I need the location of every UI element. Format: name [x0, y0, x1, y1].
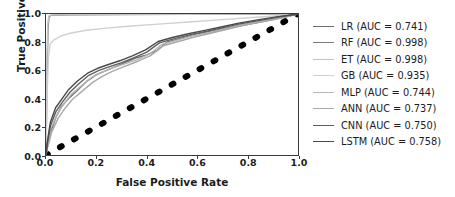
x-tick-mark — [299, 156, 300, 159]
legend-swatch-rf — [313, 42, 334, 43]
x-tick-mark — [147, 156, 148, 159]
y-tick-mark — [42, 99, 45, 100]
legend-swatch-mlp — [313, 92, 334, 93]
roc-curve-figure: 0.00.20.40.60.81.00.00.20.40.60.81.0 Fal… — [0, 0, 455, 197]
x-tick-mark — [197, 156, 198, 159]
legend: LR (AUC = 0.741)RF (AUC = 0.998)ET (AUC … — [313, 18, 453, 150]
legend-item-ann[interactable]: ANN (AUC = 0.737) — [313, 101, 453, 118]
legend-label-mlp: MLP (AUC = 0.744) — [341, 87, 435, 98]
legend-item-rf[interactable]: RF (AUC = 0.998) — [313, 35, 453, 52]
legend-label-ann: ANN (AUC = 0.737) — [341, 103, 436, 114]
legend-item-gb[interactable]: GB (AUC = 0.935) — [313, 68, 453, 85]
legend-label-cnn: CNN (AUC = 0.750) — [341, 120, 436, 131]
legend-label-et: ET (AUC = 0.998) — [341, 54, 427, 65]
legend-item-lstm[interactable]: LSTM (AUC = 0.758) — [313, 134, 453, 151]
legend-item-mlp[interactable]: MLP (AUC = 0.744) — [313, 84, 453, 101]
legend-swatch-gb — [313, 75, 334, 76]
x-tick-mark — [248, 156, 249, 159]
roc-curves-svg — [46, 14, 298, 155]
y-tick-mark — [42, 127, 45, 128]
legend-label-rf: RF (AUC = 0.998) — [341, 37, 427, 48]
legend-label-lstm: LSTM (AUC = 0.758) — [341, 136, 441, 147]
y-tick-label: 0.2 — [8, 122, 41, 133]
y-tick-label: 0.0 — [8, 151, 41, 162]
legend-swatch-et — [313, 59, 334, 60]
x-tick-mark — [96, 156, 97, 159]
legend-swatch-ann — [313, 108, 334, 109]
legend-swatch-cnn — [313, 125, 334, 126]
y-axis-label: True Positive Rate — [15, 0, 27, 91]
legend-swatch-lr — [313, 26, 334, 27]
legend-item-et[interactable]: ET (AUC = 0.998) — [313, 51, 453, 68]
legend-swatch-lstm — [313, 141, 334, 142]
plot-area — [45, 13, 299, 156]
legend-label-lr: LR (AUC = 0.741) — [341, 21, 427, 32]
y-tick-label: 0.4 — [8, 93, 41, 104]
y-tick-mark — [42, 156, 45, 157]
x-axis-label: False Positive Rate — [45, 176, 299, 188]
legend-item-lr[interactable]: LR (AUC = 0.741) — [313, 18, 453, 35]
legend-item-cnn[interactable]: CNN (AUC = 0.750) — [313, 117, 453, 134]
x-tick-mark — [45, 156, 46, 159]
y-tick-mark — [42, 70, 45, 71]
legend-label-gb: GB (AUC = 0.935) — [341, 70, 429, 81]
y-tick-mark — [42, 13, 45, 14]
y-tick-mark — [42, 42, 45, 43]
